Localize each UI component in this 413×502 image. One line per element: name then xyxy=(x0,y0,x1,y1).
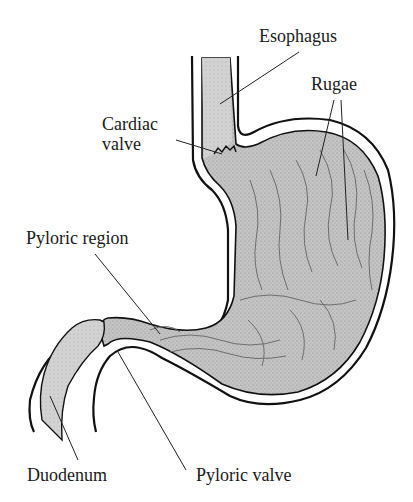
label-rugae: Rugae xyxy=(311,74,357,94)
leader-pyloric-valve xyxy=(118,352,186,470)
label-duodenum: Duodenum xyxy=(27,465,107,485)
label-esophagus: Esophagus xyxy=(259,26,337,46)
label-pyloric-valve: Pyloric valve xyxy=(196,465,291,485)
label-pyloric-region: Pyloric region xyxy=(26,228,128,248)
stomach-lumen xyxy=(101,58,385,395)
label-cardiac-valve: Cardiac valve xyxy=(102,114,158,154)
